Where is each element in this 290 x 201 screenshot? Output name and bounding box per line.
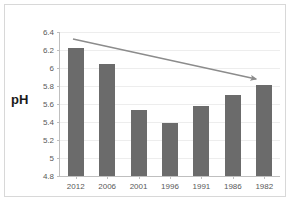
bar <box>193 106 209 176</box>
bar <box>256 85 272 176</box>
y-tick-label: 6 <box>50 64 54 73</box>
x-tick-label: 1982 <box>255 182 273 191</box>
y-tick-label: 6.4 <box>43 28 54 37</box>
x-tick-mark <box>170 176 171 179</box>
x-tick-label: 1996 <box>161 182 179 191</box>
chart-screenshot: pH 6.46.265.85.65.45.254.8 2012200620011… <box>0 0 290 201</box>
x-tick-label: 2001 <box>130 182 148 191</box>
bars-layer <box>60 32 280 176</box>
plot-area: 6.46.265.85.65.45.254.8 2012200620011996… <box>59 32 280 177</box>
y-tick-label: 4.8 <box>43 172 54 181</box>
y-tick-label: 5.4 <box>43 118 54 127</box>
bar <box>162 123 178 176</box>
x-tick-mark <box>139 176 140 179</box>
y-tick-label: 5.2 <box>43 136 54 145</box>
y-tick-label: 5.8 <box>43 82 54 91</box>
x-tick-mark <box>264 176 265 179</box>
x-tick-mark <box>201 176 202 179</box>
x-tick-label: 2012 <box>67 182 85 191</box>
x-tick-label: 1986 <box>224 182 242 191</box>
y-tick-label: 6.2 <box>43 46 54 55</box>
x-tick-label: 2006 <box>98 182 116 191</box>
bar <box>68 48 84 176</box>
y-tick-label: 5.6 <box>43 100 54 109</box>
bar <box>99 64 115 177</box>
x-tick-mark <box>76 176 77 179</box>
y-axis-label: pH <box>11 93 28 107</box>
x-tick-mark <box>107 176 108 179</box>
figure-frame: pH 6.46.265.85.65.45.254.8 2012200620011… <box>4 4 286 197</box>
x-tick-label: 1991 <box>193 182 211 191</box>
y-tick-mark <box>57 176 60 177</box>
bar <box>131 110 147 176</box>
x-tick-mark <box>233 176 234 179</box>
bar <box>225 95 241 176</box>
y-tick-label: 5 <box>50 154 54 163</box>
